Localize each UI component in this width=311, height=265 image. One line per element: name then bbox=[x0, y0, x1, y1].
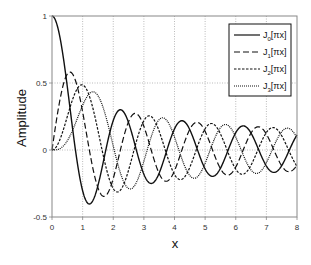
legend: J0[πx]J1[πx]J2[πx]J3[πx] bbox=[229, 24, 292, 96]
x-tick-label: 8 bbox=[295, 223, 300, 232]
x-tick-label: 1 bbox=[80, 223, 85, 232]
y-tick-label: 0 bbox=[43, 146, 48, 155]
y-tick-label: 1 bbox=[43, 12, 48, 21]
x-tick-label: 4 bbox=[172, 223, 177, 232]
y-axis-ticks: -0.500.51 bbox=[33, 12, 52, 222]
x-tick-label: 3 bbox=[142, 223, 147, 232]
x-axis-label: x bbox=[172, 236, 179, 251]
curve-j2 bbox=[52, 85, 297, 192]
x-tick-label: 0 bbox=[50, 223, 55, 232]
legend-label-j2: J2[πx] bbox=[263, 64, 287, 76]
legend-label-j0: J0[πx] bbox=[263, 30, 287, 42]
y-axis-label: Amplitude bbox=[14, 89, 29, 147]
x-tick-label: 2 bbox=[111, 223, 116, 232]
y-tick-label: 0.5 bbox=[36, 79, 48, 88]
bessel-chart: 012345678 -0.500.51 x Amplitude J0[πx]J1… bbox=[0, 0, 311, 265]
legend-label-j3: J3[πx] bbox=[263, 81, 287, 93]
legend-label-j1: J1[πx] bbox=[263, 47, 287, 59]
x-tick-label: 5 bbox=[203, 223, 208, 232]
x-tick-label: 7 bbox=[264, 223, 269, 232]
x-axis-ticks: 012345678 bbox=[50, 217, 300, 232]
y-tick-label: -0.5 bbox=[33, 213, 47, 222]
x-tick-label: 6 bbox=[234, 223, 239, 232]
